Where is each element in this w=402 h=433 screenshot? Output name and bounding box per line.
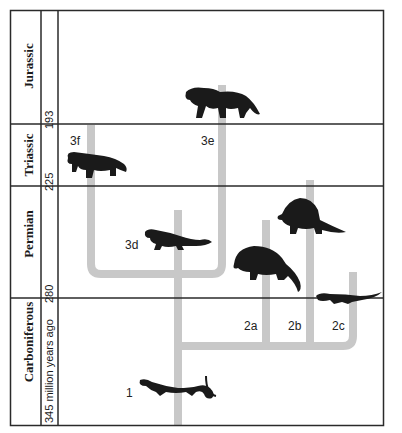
- branch-label-3e: 3e: [201, 134, 214, 148]
- mya-345-million-years-ago: 345 million years ago: [43, 299, 57, 423]
- table-frame: [10, 10, 384, 426]
- branch-label-1: 1: [126, 386, 133, 400]
- mya-225: 225: [43, 151, 57, 191]
- period-permian: Permian: [21, 197, 37, 271]
- dicynodont-icon: [68, 152, 127, 178]
- branch-label-3f: 3f: [70, 134, 80, 148]
- period-triassic: Triassic: [21, 118, 37, 192]
- branch-label-2b: 2b: [288, 319, 301, 333]
- cynodont-icon: [186, 88, 261, 119]
- branch-label-3d: 3d: [125, 238, 138, 252]
- mya-280: 280: [43, 263, 57, 303]
- period-jurassic: Jurassic: [21, 29, 37, 103]
- mya-193: 193: [43, 89, 57, 129]
- branch-label-2c: 2c: [332, 319, 345, 333]
- branch-label-2a: 2a: [244, 319, 257, 333]
- evolution-diagram: Jurassic Triassic Permian Carboniferous …: [0, 0, 402, 433]
- period-carboniferous: Carboniferous: [21, 291, 37, 393]
- diagram-canvas: [0, 0, 402, 433]
- phylogeny-branches: [91, 85, 353, 425]
